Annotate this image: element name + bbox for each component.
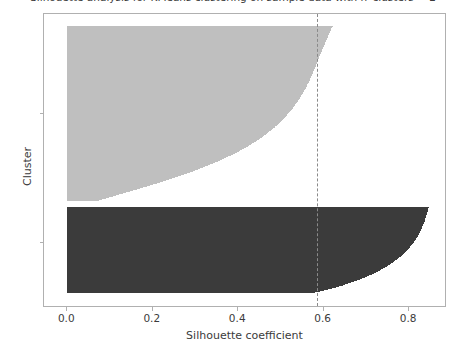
silhouette-bar — [67, 182, 159, 183]
silhouette-bar — [67, 92, 303, 93]
silhouette-bar — [67, 29, 331, 30]
silhouette-bar — [67, 292, 315, 293]
silhouette-bar — [67, 282, 351, 283]
silhouette-bar — [67, 219, 425, 220]
silhouette-bar — [67, 49, 322, 50]
silhouette-bar — [67, 133, 267, 134]
silhouette-bar — [67, 237, 417, 238]
silhouette-bar — [67, 166, 205, 167]
silhouette-bar — [67, 217, 426, 218]
silhouette-bar — [67, 90, 304, 91]
silhouette-bar — [67, 44, 324, 45]
silhouette-bar — [67, 83, 308, 84]
silhouette-bar — [67, 236, 417, 237]
silhouette-bar — [67, 167, 202, 168]
silhouette-bar — [67, 58, 318, 59]
silhouette-bar — [67, 185, 150, 186]
silhouette-bar — [67, 289, 328, 290]
silhouette-bar — [67, 265, 388, 266]
silhouette-bar — [67, 52, 321, 53]
silhouette-bar — [67, 197, 109, 198]
silhouette-bar — [67, 175, 181, 176]
y-tick-mark — [40, 242, 44, 243]
silhouette-bar — [67, 225, 423, 226]
silhouette-bar — [67, 248, 408, 249]
silhouette-bar — [67, 192, 126, 193]
silhouette-bar — [67, 288, 332, 289]
x-tick-mark — [408, 307, 409, 311]
silhouette-bar — [67, 107, 293, 108]
silhouette-bar — [67, 269, 381, 270]
silhouette-plot-figure: Silhouette analysis for KMeans clusterin… — [0, 0, 466, 358]
silhouette-bar — [67, 171, 192, 172]
silhouette-bar — [67, 55, 320, 56]
silhouette-bar — [67, 155, 230, 156]
silhouette-bar — [67, 279, 359, 280]
silhouette-bar — [67, 229, 421, 230]
silhouette-bar — [67, 168, 200, 169]
silhouette-bar — [67, 173, 187, 174]
silhouette-bar — [67, 94, 302, 95]
silhouette-bar — [67, 65, 316, 66]
silhouette-bar — [67, 233, 419, 234]
silhouette-bar — [67, 56, 319, 57]
x-tick-label: 0.6 — [314, 312, 331, 324]
silhouette-bar — [67, 178, 172, 179]
silhouette-bar — [67, 27, 332, 28]
silhouette-bar — [67, 254, 402, 255]
silhouette-bar — [67, 215, 426, 216]
silhouette-bar — [67, 39, 326, 40]
silhouette-bar — [67, 212, 427, 213]
silhouette-bar — [67, 194, 119, 195]
silhouette-bar — [67, 255, 402, 256]
silhouette-bar — [67, 76, 311, 77]
silhouette-bar — [67, 170, 195, 171]
silhouette-bar — [67, 84, 307, 85]
silhouette-bar — [67, 240, 415, 241]
silhouette-bar — [67, 61, 317, 62]
x-tick-mark — [152, 307, 153, 311]
silhouette-bar — [67, 120, 282, 121]
silhouette-bar — [67, 26, 333, 27]
silhouette-bar — [67, 164, 210, 165]
silhouette-bar — [67, 134, 265, 135]
x-tick-mark — [66, 307, 67, 311]
silhouette-bar — [67, 122, 279, 123]
silhouette-bar — [67, 151, 238, 152]
silhouette-bar — [67, 99, 299, 100]
silhouette-bar — [67, 214, 426, 215]
silhouette-bar — [67, 91, 304, 92]
silhouette-bar — [67, 272, 376, 273]
silhouette-bar — [67, 239, 415, 240]
silhouette-bar — [67, 245, 411, 246]
silhouette-bar — [67, 196, 112, 197]
silhouette-bar — [67, 96, 301, 97]
silhouette-bar — [67, 246, 410, 247]
silhouette-bar — [67, 113, 288, 114]
silhouette-bar — [67, 129, 272, 130]
silhouette-bar — [67, 193, 123, 194]
silhouette-bar — [67, 222, 424, 223]
silhouette-bar — [67, 57, 319, 58]
silhouette-bar — [67, 135, 264, 136]
silhouette-bar — [67, 250, 407, 251]
average-silhouette-dashed-line — [317, 14, 318, 306]
silhouette-bar — [67, 38, 327, 39]
silhouette-bar — [67, 45, 324, 46]
silhouette-bar — [67, 207, 429, 208]
silhouette-bar — [67, 274, 371, 275]
silhouette-bar — [67, 142, 254, 143]
silhouette-bar — [67, 75, 311, 76]
silhouette-bar — [67, 42, 325, 43]
silhouette-bar — [67, 216, 426, 217]
silhouette-bar — [67, 62, 317, 63]
silhouette-bar — [67, 47, 323, 48]
silhouette-bar — [67, 77, 311, 78]
silhouette-bar — [67, 98, 299, 99]
silhouette-bar — [67, 251, 406, 252]
silhouette-bar — [67, 67, 315, 68]
silhouette-bar — [67, 123, 279, 124]
silhouette-bar — [67, 102, 296, 103]
silhouette-bar — [67, 68, 314, 69]
silhouette-bar — [67, 263, 391, 264]
